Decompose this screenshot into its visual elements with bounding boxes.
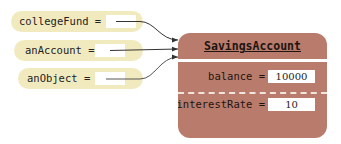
- field-value: 10000: [268, 70, 315, 83]
- arrow-collegeFund: [116, 22, 178, 41]
- field-balance: balance = 10000: [178, 70, 327, 83]
- savings-account-object: SavingsAccount balance = 10000 interestR…: [178, 33, 327, 138]
- arrow-anAccount: [110, 49, 178, 51]
- object-class-name: SavingsAccount: [178, 33, 327, 59]
- arrow-anObject: [106, 57, 178, 79]
- field-divider: [178, 92, 327, 94]
- field-label: interestRate =: [178, 98, 265, 111]
- field-interestRate: interestRate = 10: [178, 98, 327, 111]
- field-label: balance =: [208, 70, 265, 83]
- header-separator: [178, 59, 327, 62]
- field-value: 10: [268, 98, 315, 111]
